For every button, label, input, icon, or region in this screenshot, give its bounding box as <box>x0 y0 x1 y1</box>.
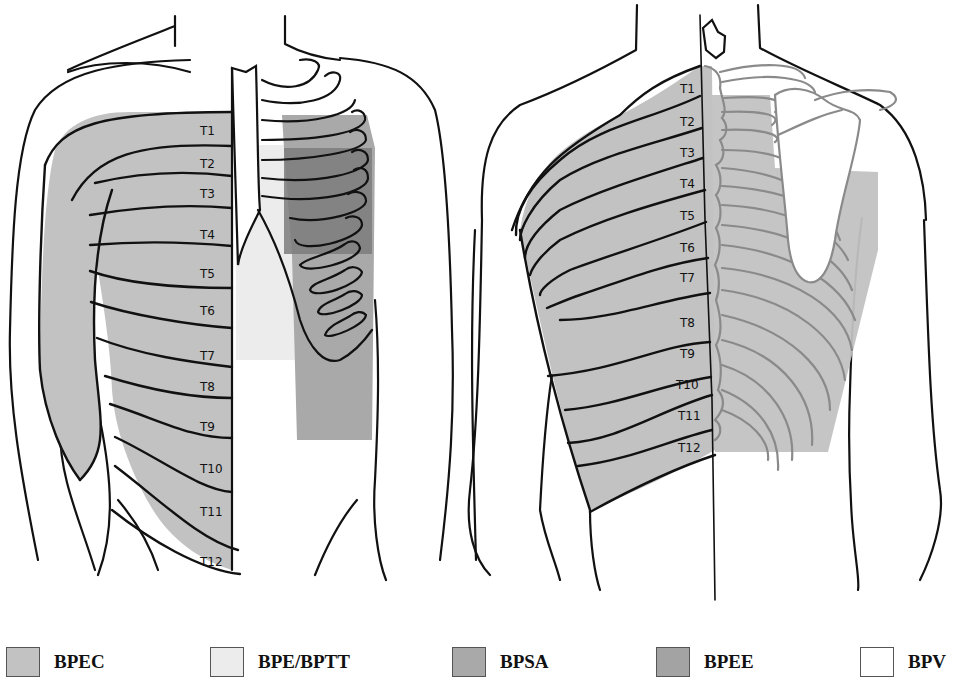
back-label-t11: T11 <box>677 409 701 423</box>
bpec-region-front <box>40 112 232 570</box>
back-label-t2: T2 <box>679 115 695 129</box>
legend-label-bpv: BPV <box>908 651 946 673</box>
back-view: T1 T2 T3 T4 T5 T6 T7 T8 T9 T10 T11 T12 <box>469 5 941 600</box>
front-label-t12: T12 <box>199 555 223 569</box>
legend-item-bpe-bptt: BPE/BPTT <box>210 644 350 680</box>
back-label-t6: T6 <box>679 241 695 255</box>
front-label-t7: T7 <box>199 349 215 363</box>
bpee-swatch <box>656 647 690 677</box>
front-label-t8: T8 <box>199 380 215 394</box>
back-label-t8: T8 <box>679 316 695 330</box>
bpsa-swatch <box>452 647 486 677</box>
dermatome-figure: T1 T2 T3 T4 T5 T6 T7 T8 T9 T10 T11 T12 <box>0 0 956 620</box>
legend-item-bpsa: BPSA <box>452 644 549 680</box>
front-label-t2: T2 <box>199 157 215 171</box>
back-label-t5: T5 <box>679 209 695 223</box>
legend-item-bpv: BPV <box>860 644 946 680</box>
back-label-t9: T9 <box>679 347 695 361</box>
bpv-swatch <box>860 647 894 677</box>
back-label-t4: T4 <box>679 177 695 191</box>
legend-label-bpsa: BPSA <box>500 651 549 673</box>
front-label-t10: T10 <box>199 462 223 476</box>
back-label-t3: T3 <box>679 146 695 160</box>
front-label-t5: T5 <box>199 267 215 281</box>
front-label-t4: T4 <box>199 228 215 242</box>
front-label-t6: T6 <box>199 304 215 318</box>
bpec-swatch <box>6 647 40 677</box>
front-label-t1: T1 <box>199 124 215 138</box>
front-label-t3: T3 <box>199 187 215 201</box>
front-label-t9: T9 <box>199 420 215 434</box>
back-label-t12: T12 <box>677 441 701 455</box>
front-view: T1 T2 T3 T4 T5 T6 T7 T8 T9 T10 T11 T12 <box>10 16 476 580</box>
back-label-t1: T1 <box>679 82 695 96</box>
bpee-region-front <box>284 148 372 254</box>
front-label-t11: T11 <box>199 505 223 519</box>
legend-label-bpee: BPEE <box>704 651 754 673</box>
legend-label-bpec: BPEC <box>54 651 105 673</box>
back-label-t7: T7 <box>679 271 695 285</box>
legend: BPEC BPE/BPTT BPSA BPEE BPV <box>0 640 956 690</box>
legend-item-bpec: BPEC <box>6 644 105 680</box>
bpe-bptt-swatch <box>210 647 244 677</box>
back-label-t10: T10 <box>675 378 699 392</box>
legend-label-bpe-bptt: BPE/BPTT <box>258 651 350 673</box>
legend-item-bpee: BPEE <box>656 644 754 680</box>
